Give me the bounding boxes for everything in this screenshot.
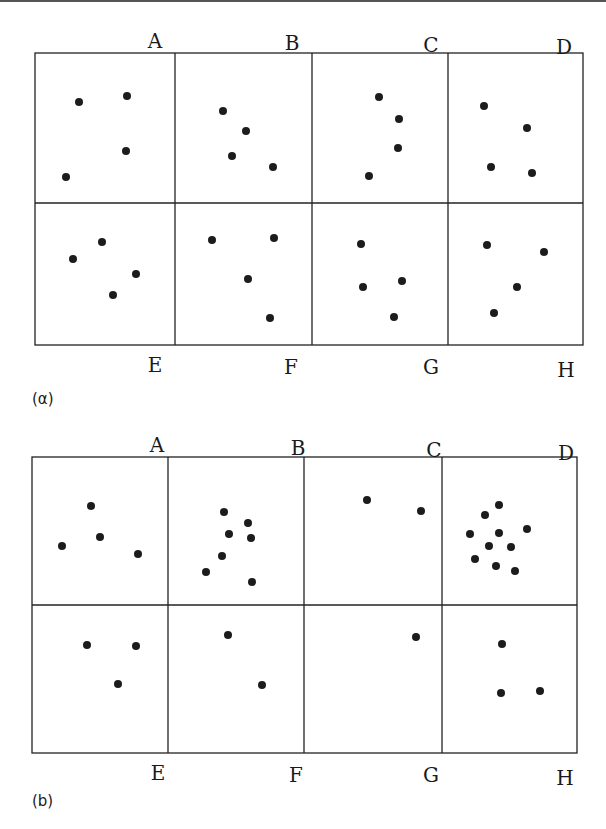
point-dot <box>62 173 70 181</box>
point-dot <box>75 98 83 106</box>
panel-caption: (b) <box>32 792 53 810</box>
point-dot <box>395 115 403 123</box>
point-dot <box>69 255 77 263</box>
bottom-label-f: F <box>284 355 298 379</box>
point-dot <box>375 93 383 101</box>
point-dot <box>528 169 536 177</box>
cell-f <box>208 234 278 322</box>
cell-c <box>363 496 425 515</box>
point-dot <box>258 681 266 689</box>
cell-h <box>497 640 544 697</box>
point-dot <box>132 642 140 650</box>
top-label-a: A <box>149 433 165 457</box>
top-label-c: C <box>426 438 441 462</box>
cell-a <box>58 502 142 558</box>
point-dot <box>523 124 531 132</box>
bottom-label-g: G <box>423 355 439 379</box>
bottom-label-h: H <box>556 766 573 790</box>
point-dot <box>83 641 91 649</box>
cell-d <box>480 102 536 177</box>
point-dot <box>244 519 252 527</box>
top-label-a: A <box>147 29 163 53</box>
point-dot <box>134 550 142 558</box>
point-dot <box>220 508 228 516</box>
point-dot <box>471 555 479 563</box>
cell-e <box>83 641 140 688</box>
cell-c <box>365 93 403 180</box>
bottom-label-g: G <box>423 763 439 787</box>
point-dot <box>507 543 515 551</box>
point-dot <box>357 240 365 248</box>
point-dot <box>219 107 227 115</box>
top-label-d: D <box>558 441 574 465</box>
point-dot <box>98 238 106 246</box>
dot-grid-figure: ABCDEFGH(α)ABCDEFGH(b) <box>0 0 606 829</box>
point-dot <box>248 578 256 586</box>
cell-g <box>412 633 420 641</box>
point-dot <box>58 542 66 550</box>
point-dot <box>224 631 232 639</box>
cell-a <box>62 92 131 181</box>
top-label-b: B <box>285 31 300 55</box>
point-dot <box>266 314 274 322</box>
point-dot <box>123 92 131 100</box>
point-dot <box>202 568 210 576</box>
point-dot <box>485 542 493 550</box>
bottom-label-h: H <box>557 358 574 382</box>
top-label-d: D <box>556 35 572 59</box>
point-dot <box>417 507 425 515</box>
panel-b: ABCDEFGH(b) <box>32 433 577 810</box>
point-dot <box>513 283 521 291</box>
point-dot <box>242 127 250 135</box>
point-dot <box>498 640 506 648</box>
point-dot <box>363 496 371 504</box>
cell-d <box>466 501 531 575</box>
point-dot <box>208 236 216 244</box>
point-dot <box>218 552 226 560</box>
point-dot <box>483 241 491 249</box>
point-dot <box>365 172 373 180</box>
point-dot <box>511 567 519 575</box>
point-dot <box>225 530 233 538</box>
cell-b <box>202 508 256 586</box>
point-dot <box>398 277 406 285</box>
point-dot <box>481 511 489 519</box>
point-dot <box>495 529 503 537</box>
point-dot <box>487 163 495 171</box>
point-dot <box>480 102 488 110</box>
panel-caption: (α) <box>32 390 54 408</box>
point-dot <box>244 275 252 283</box>
top-label-b: B <box>291 436 306 460</box>
point-dot <box>540 248 548 256</box>
cell-e <box>69 238 140 299</box>
point-dot <box>247 534 255 542</box>
point-dot <box>109 291 117 299</box>
point-dot <box>492 562 500 570</box>
point-dot <box>269 163 277 171</box>
top-label-c: C <box>423 33 438 57</box>
point-dot <box>497 689 505 697</box>
cell-b <box>219 107 277 171</box>
panel-a: ABCDEFGH(α) <box>32 29 583 408</box>
grid-frame <box>32 457 577 753</box>
point-dot <box>412 633 420 641</box>
bottom-label-e: E <box>151 761 166 785</box>
bottom-label-f: F <box>289 763 303 787</box>
point-dot <box>359 283 367 291</box>
point-dot <box>96 533 104 541</box>
point-dot <box>523 525 531 533</box>
point-dot <box>536 687 544 695</box>
cell-h <box>483 241 548 317</box>
point-dot <box>132 270 140 278</box>
point-dot <box>390 313 398 321</box>
cell-f <box>224 631 266 689</box>
cell-g <box>357 240 406 321</box>
point-dot <box>122 147 130 155</box>
point-dot <box>87 502 95 510</box>
point-dot <box>495 501 503 509</box>
point-dot <box>394 144 402 152</box>
grid-frame <box>35 53 583 345</box>
point-dot <box>270 234 278 242</box>
point-dot <box>114 680 122 688</box>
point-dot <box>228 152 236 160</box>
